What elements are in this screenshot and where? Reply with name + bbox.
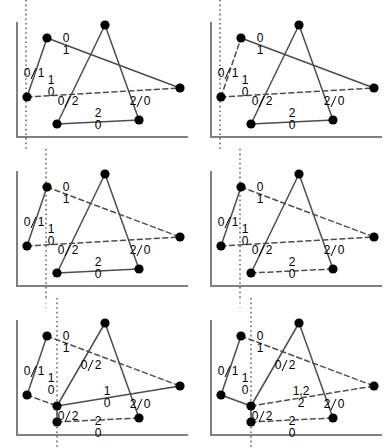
vertex-c[interactable]: [100, 318, 109, 327]
figure-grid: 0101100220200101100220200101100220200101…: [0, 0, 388, 448]
vertex-b[interactable]: [42, 33, 51, 42]
label-de: 20: [95, 106, 102, 132]
label-de-denominator: 0: [95, 426, 102, 440]
label-ce-slash: [331, 399, 336, 410]
label-af-denominator: 0: [48, 234, 55, 248]
label-gf-denominator: 0: [104, 396, 111, 410]
label-af: 10: [48, 73, 55, 99]
label-dc: 02: [58, 94, 79, 108]
label-ab-denominator: 1: [232, 66, 239, 80]
vertex-c[interactable]: [294, 169, 303, 178]
vertex-a[interactable]: [22, 390, 31, 399]
label-ce-numerator: 2: [130, 243, 137, 257]
label-gc-slash: [282, 360, 287, 371]
label-dc-numerator: 0: [252, 243, 259, 257]
label-ce-slash: [331, 245, 336, 256]
label-bf-denominator: 1: [257, 43, 264, 57]
vertex-f[interactable]: [175, 232, 184, 241]
label-dc: 02: [252, 94, 273, 108]
label-ce: 20: [324, 243, 345, 257]
label-gc-numerator: 0: [275, 358, 282, 372]
label-de-denominator: 0: [95, 118, 102, 132]
label-dc-numerator: 0: [252, 94, 259, 108]
label-ce-denominator: 0: [144, 397, 151, 411]
vertex-d[interactable]: [246, 268, 255, 277]
label-gf: 10: [104, 384, 111, 410]
label-bf: 01: [257, 31, 264, 57]
label-ce-numerator: 2: [324, 243, 331, 257]
label-ce: 20: [324, 94, 345, 108]
label-bf-denominator: 1: [63, 192, 70, 206]
vertex-f[interactable]: [369, 83, 378, 92]
vertex-b[interactable]: [236, 182, 245, 191]
vertex-f[interactable]: [175, 83, 184, 92]
label-bf-denominator: 1: [63, 43, 70, 57]
vertex-e[interactable]: [328, 115, 337, 124]
edge-g-f[interactable]: [57, 386, 180, 406]
vertex-a[interactable]: [22, 92, 31, 101]
label-dc-denominator: 2: [266, 243, 273, 257]
label-ce-slash: [137, 399, 142, 410]
label-ab-numerator: 0: [24, 66, 31, 80]
panel-5: 0101100210022020: [0, 298, 194, 448]
vertex-d[interactable]: [246, 119, 255, 128]
label-bf-denominator: 1: [257, 192, 264, 206]
label-de-denominator: 0: [289, 118, 296, 132]
label-ab-denominator: 1: [38, 66, 45, 80]
vertex-c[interactable]: [294, 20, 303, 29]
label-af-denominator: 0: [242, 234, 249, 248]
label-af: 10: [242, 222, 249, 248]
label-de: 20: [289, 106, 296, 132]
vertex-a[interactable]: [22, 241, 31, 250]
label-gf: 1,22: [293, 384, 310, 410]
label-ce-numerator: 2: [130, 94, 137, 108]
label-ce: 20: [130, 397, 151, 411]
vertex-c[interactable]: [100, 20, 109, 29]
label-ce-denominator: 0: [338, 243, 345, 257]
label-bf-denominator: 1: [63, 341, 70, 355]
label-gc: 02: [81, 358, 102, 372]
label-de: 20: [95, 255, 102, 281]
vertex-b[interactable]: [236, 33, 245, 42]
vertex-f[interactable]: [369, 232, 378, 241]
label-ab-denominator: 1: [38, 215, 45, 229]
vertex-a[interactable]: [216, 390, 225, 399]
label-ce-numerator: 2: [324, 94, 331, 108]
vertex-d[interactable]: [52, 119, 61, 128]
label-dc-numerator: 0: [58, 243, 65, 257]
label-dc-denominator: 2: [266, 94, 273, 108]
vertex-e[interactable]: [134, 115, 143, 124]
label-ce-denominator: 0: [338, 397, 345, 411]
vertex-a[interactable]: [216, 241, 225, 250]
label-bf: 01: [257, 180, 264, 206]
label-af: 10: [242, 73, 249, 99]
label-dc: 02: [58, 243, 79, 257]
label-gc-denominator: 2: [289, 358, 296, 372]
label-dc-denominator: 2: [72, 94, 79, 108]
vertex-f[interactable]: [369, 381, 378, 390]
label-ag-denominator: 0: [242, 383, 249, 397]
label-dg-denominator: 2: [266, 409, 273, 423]
label-ag: 10: [48, 371, 55, 397]
label-ab-numerator: 0: [24, 215, 31, 229]
panel-4: 010110022020: [194, 149, 388, 299]
edge-g-f[interactable]: [251, 386, 374, 406]
vertex-b[interactable]: [42, 182, 51, 191]
label-gc: 02: [275, 358, 296, 372]
vertex-a[interactable]: [216, 92, 225, 101]
vertex-e[interactable]: [134, 264, 143, 273]
vertex-f[interactable]: [175, 381, 184, 390]
vertex-e[interactable]: [328, 264, 337, 273]
panel-2: 010110022020: [194, 0, 388, 150]
label-ab-denominator: 1: [232, 215, 239, 229]
vertex-e[interactable]: [134, 413, 143, 422]
vertex-c[interactable]: [294, 318, 303, 327]
label-dg-denominator: 2: [72, 409, 79, 423]
vertex-b[interactable]: [236, 331, 245, 340]
vertex-e[interactable]: [328, 413, 337, 422]
vertex-d[interactable]: [52, 268, 61, 277]
vertex-b[interactable]: [42, 331, 51, 340]
vertex-c[interactable]: [100, 169, 109, 178]
panel-6: 010110021,22022020: [194, 298, 388, 448]
label-dc-slash: [65, 245, 70, 256]
